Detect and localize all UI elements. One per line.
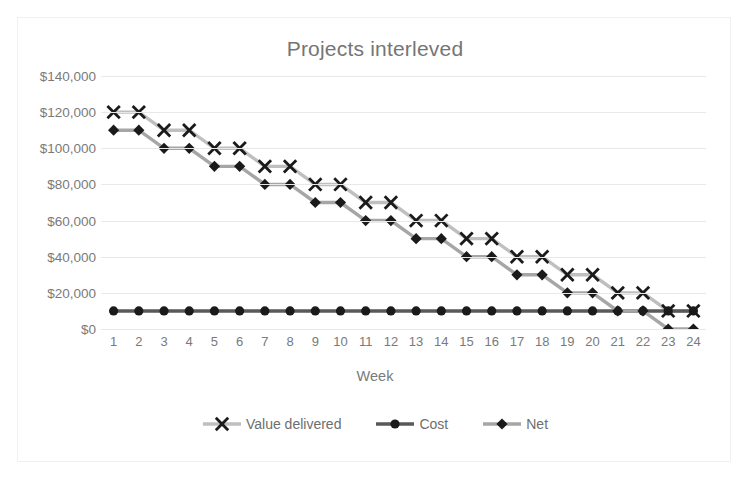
- x-axis-tick-label: 16: [484, 334, 498, 349]
- data-point-marker: [512, 306, 521, 315]
- x-axis-tick-label: 3: [160, 334, 167, 349]
- data-point-marker: [336, 306, 345, 315]
- x-axis-tick-label: 23: [661, 334, 675, 349]
- series-1: [109, 306, 698, 315]
- legend-item[interactable]: Net: [482, 416, 548, 432]
- data-point-marker: [260, 306, 269, 315]
- chart-legend: Value deliveredCostNet: [18, 416, 732, 432]
- series-0: [107, 106, 699, 317]
- series-line: [114, 130, 694, 329]
- x-axis-tick-label: 11: [359, 334, 373, 349]
- x-axis-tick-label: 22: [636, 334, 650, 349]
- x-axis-tick-label: 14: [434, 334, 448, 349]
- data-point-marker: [185, 306, 194, 315]
- plot-area: [101, 76, 706, 329]
- x-axis-tick-label: 6: [236, 334, 243, 349]
- gridline: [101, 293, 706, 294]
- x-axis-tick-label: 2: [135, 334, 142, 349]
- data-point-marker: [563, 306, 572, 315]
- y-axis-tick-label: $140,000: [40, 69, 96, 84]
- x-axis-tick-label: 8: [286, 334, 293, 349]
- y-axis-tick-label: $60,000: [47, 213, 96, 228]
- x-axis-tick-label: 17: [510, 334, 524, 349]
- y-axis-tick-label: $100,000: [40, 141, 96, 156]
- x-axis-tick-label: 19: [560, 334, 574, 349]
- data-point-marker: [159, 306, 168, 315]
- series-line: [114, 112, 694, 311]
- legend-marker-icon: [375, 416, 415, 432]
- data-point-marker: [235, 306, 244, 315]
- x-axis-tick-label: 18: [535, 334, 549, 349]
- x-axis-tick-label: 4: [186, 334, 193, 349]
- data-point-marker: [437, 306, 446, 315]
- y-axis-tick-label: $20,000: [47, 285, 96, 300]
- y-axis-tick-label: $80,000: [47, 177, 96, 192]
- legend-label: Value delivered: [246, 416, 341, 432]
- legend-label: Cost: [419, 416, 448, 432]
- x-axis-title: Week: [18, 368, 732, 384]
- data-point-marker: [109, 306, 118, 315]
- gridline: [101, 221, 706, 222]
- legend-marker-icon: [482, 416, 522, 432]
- data-point-marker: [538, 306, 547, 315]
- y-axis-tick-label: $120,000: [40, 105, 96, 120]
- x-axis-tick-label: 10: [333, 334, 347, 349]
- data-point-marker: [664, 306, 673, 315]
- data-point-marker: [386, 306, 395, 315]
- data-point-marker: [689, 306, 698, 315]
- x-axis-tick-label: 5: [211, 334, 218, 349]
- data-point-marker: [462, 306, 471, 315]
- y-axis-tick-labels: $0$20,000$40,000$60,000$80,000$100,000$1…: [18, 76, 96, 329]
- data-point-marker: [134, 306, 143, 315]
- data-point-marker: [361, 306, 370, 315]
- x-axis-tick-label: 7: [261, 334, 268, 349]
- x-axis-tick-label: 20: [585, 334, 599, 349]
- series-2: [108, 125, 699, 329]
- data-point-marker: [210, 306, 219, 315]
- y-axis-tick-label: $0: [81, 322, 96, 337]
- x-axis-tick-label: 1: [110, 334, 117, 349]
- data-point-marker: [285, 306, 294, 315]
- data-point-marker: [588, 306, 597, 315]
- chart-container: Projects interleved $0$20,000$40,000$60,…: [17, 17, 731, 462]
- legend-item[interactable]: Value delivered: [202, 416, 341, 432]
- x-axis-tick-label: 9: [312, 334, 319, 349]
- chart-title: Projects interleved: [18, 37, 732, 61]
- legend-label: Net: [526, 416, 548, 432]
- data-point-marker: [108, 125, 119, 136]
- x-axis-tick-label: 24: [686, 334, 700, 349]
- gridline: [101, 257, 706, 258]
- x-axis-tick-label: 12: [384, 334, 398, 349]
- gridline: [101, 184, 706, 185]
- data-point-marker: [412, 306, 421, 315]
- gridline: [101, 148, 706, 149]
- data-point-marker: [487, 306, 496, 315]
- series-plot: [101, 76, 706, 329]
- x-axis-tick-label: 15: [459, 334, 473, 349]
- gridline: [101, 329, 706, 330]
- legend-item[interactable]: Cost: [375, 416, 448, 432]
- data-point-marker: [311, 306, 320, 315]
- x-axis-tick-label: 13: [409, 334, 423, 349]
- legend-marker-icon: [202, 416, 242, 432]
- gridline: [101, 112, 706, 113]
- x-axis-tick-label: 21: [611, 334, 625, 349]
- gridline: [101, 76, 706, 77]
- y-axis-tick-label: $40,000: [47, 249, 96, 264]
- x-axis-tick-labels: 123456789101112131415161718192021222324: [101, 334, 706, 356]
